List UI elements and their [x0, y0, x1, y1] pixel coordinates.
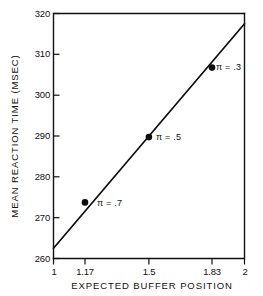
y-tick-label-260: 260: [35, 253, 50, 264]
scatter-plot: 260 270 280 290 300 310 320 1 1.17 1.5 1…: [0, 0, 263, 296]
data-point-pi-03: [209, 64, 216, 71]
x-tick-label-1-83: 1.83: [203, 266, 221, 277]
chart-figure: 260 270 280 290 300 310 320 1 1.17 1.5 1…: [0, 0, 263, 296]
annotation-pi-03: π = .3: [216, 62, 241, 72]
x-tick-label-2: 2: [242, 266, 247, 277]
x-axis-title: EXPECTED BUFFER POSITION: [71, 280, 232, 291]
annotation-pi-07: π = .7: [97, 198, 122, 208]
y-tick-label-310: 310: [35, 48, 50, 59]
x-tick-label-1: 1: [51, 266, 56, 277]
data-point-pi-07: [82, 199, 89, 206]
y-tick-label-320: 320: [35, 8, 50, 19]
y-tick-label-300: 300: [35, 89, 50, 100]
x-axis-tick-labels: 1 1.17 1.5 1.83 2: [51, 266, 247, 277]
y-axis-title: MEAN REACTION TIME (MSEC): [9, 54, 20, 217]
y-tick-label-280: 280: [35, 171, 50, 182]
y-tick-label-270: 270: [35, 212, 50, 223]
data-point-pi-05: [146, 134, 153, 141]
annotation-pi-05: π = .5: [156, 132, 181, 142]
x-tick-label-1-17: 1.17: [76, 266, 94, 277]
y-tick-label-290: 290: [35, 130, 50, 141]
x-tick-label-1-5: 1.5: [143, 266, 156, 277]
plot-background: [0, 0, 263, 296]
